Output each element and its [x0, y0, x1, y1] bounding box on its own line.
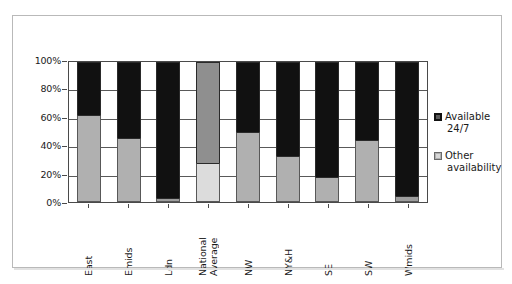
bar-segment-available-24-7[interactable] — [156, 62, 180, 198]
x-axis-tick-mark — [168, 204, 169, 208]
bar-segment-other-availability[interactable] — [315, 177, 339, 202]
y-axis-tick-mark — [62, 118, 67, 119]
bar-column[interactable] — [315, 62, 339, 202]
y-axis: 100%80%60%40%20%0% — [25, 54, 67, 210]
frame-shadow — [14, 268, 504, 270]
x-axis: EastEmidsLdnNational AverageNWNY&HSESWWm… — [68, 204, 428, 276]
x-axis-tick-mark — [208, 204, 209, 208]
x-axis-tick-label: National Average — [197, 209, 219, 276]
x-axis-tick-mark — [368, 204, 369, 208]
bar-column[interactable] — [117, 62, 141, 202]
bar-segment-other-availability[interactable] — [276, 156, 300, 202]
bar-segment-other-availability[interactable] — [395, 196, 419, 202]
bar-segment-other-availability[interactable] — [196, 163, 220, 202]
x-axis-tick-label: East — [83, 209, 94, 276]
bar-segment-other-availability[interactable] — [117, 138, 141, 202]
bar-segment-available-24-7[interactable] — [276, 62, 300, 156]
y-axis-tick-mark — [62, 146, 67, 147]
x-axis-tick-label: NW — [243, 209, 254, 276]
bar-column[interactable] — [276, 62, 300, 202]
legend-label-line2: 24/7 — [445, 123, 490, 135]
bar-column[interactable] — [196, 62, 220, 202]
bar-segment-available-24-7[interactable] — [77, 62, 101, 115]
x-axis-label-group: NW — [236, 204, 260, 276]
bar-segment-available-24-7[interactable] — [395, 62, 419, 196]
bar-column[interactable] — [355, 62, 379, 202]
y-axis-tick-mark — [62, 175, 67, 176]
x-axis-tick-label: SE — [323, 209, 334, 276]
x-axis-tick-mark — [288, 204, 289, 208]
x-axis-tick-mark — [328, 204, 329, 208]
bar-series-group — [69, 62, 427, 202]
x-axis-label-group: Emids — [116, 204, 140, 276]
bar-segment-available-24-7[interactable] — [355, 62, 379, 140]
legend-label: Otheravailability — [445, 150, 501, 174]
y-axis-tick-label: 20% — [19, 169, 61, 180]
bar-segment-other-availability[interactable] — [355, 140, 379, 202]
x-axis-tick-mark — [248, 204, 249, 208]
y-axis-tick-mark — [62, 89, 67, 90]
x-axis-label-group: SW — [356, 204, 380, 276]
y-axis-tick-label: 0% — [19, 197, 61, 208]
bar-segment-available-24-7[interactable] — [117, 62, 141, 138]
chart-frame: 100%80%60%40%20%0% EastEmidsLdnNational … — [12, 15, 502, 268]
bar-column[interactable] — [236, 62, 260, 202]
x-axis-label-group: National Average — [196, 204, 220, 276]
legend-label: Available24/7 — [445, 111, 490, 135]
legend-item[interactable]: Available24/7 — [434, 111, 512, 135]
legend-label-line2: availability — [445, 162, 501, 174]
bar-segment-available-24-7[interactable] — [236, 62, 260, 132]
legend-swatch-icon — [434, 113, 442, 121]
y-axis-tick-label: 80% — [19, 83, 61, 94]
chart-legend: Available24/7Otheravailability — [434, 111, 512, 189]
x-axis-label-group: NY&H — [276, 204, 300, 276]
bar-column[interactable] — [77, 62, 101, 202]
bar-segment-available-24-7[interactable] — [196, 62, 220, 163]
bar-column[interactable] — [395, 62, 419, 202]
y-axis-tick-label: 60% — [19, 112, 61, 123]
x-axis-tick-label: Emids — [123, 209, 134, 276]
y-axis-tick-label: 100% — [19, 55, 61, 66]
bar-segment-other-availability[interactable] — [236, 132, 260, 202]
x-axis-tick-mark — [408, 204, 409, 208]
bar-column[interactable] — [156, 62, 180, 202]
legend-item[interactable]: Otheravailability — [434, 150, 512, 174]
bar-segment-other-availability[interactable] — [77, 115, 101, 202]
x-axis-label-group: Ldn — [156, 204, 180, 276]
bar-segment-available-24-7[interactable] — [315, 62, 339, 177]
x-axis-label-group: East — [76, 204, 100, 276]
x-axis-label-group: Wmids — [396, 204, 420, 276]
bar-segment-other-availability[interactable] — [156, 198, 180, 202]
x-axis-tick-label: SW — [363, 209, 374, 276]
plot-area — [68, 61, 428, 203]
y-axis-tick-label: 40% — [19, 140, 61, 151]
x-axis-tick-mark — [88, 204, 89, 208]
x-axis-label-group: SE — [316, 204, 340, 276]
x-axis-tick-mark — [128, 204, 129, 208]
y-axis-tick-mark — [62, 61, 67, 62]
y-axis-tick-mark — [62, 203, 67, 204]
x-axis-tick-label: Ldn — [163, 209, 174, 276]
legend-swatch-icon — [434, 152, 442, 160]
x-axis-tick-label: Wmids — [403, 209, 414, 276]
x-axis-tick-label: NY&H — [283, 209, 294, 276]
